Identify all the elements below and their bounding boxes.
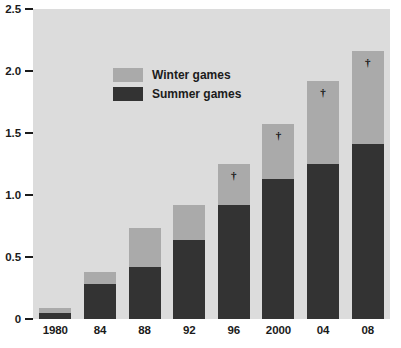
legend-label-summer-games: Summer games	[152, 87, 241, 101]
plot-area: †††† Winter games Summer games	[33, 9, 390, 319]
bar-segment-winter-1980[interactable]	[39, 308, 71, 313]
x-axis-tick-label-96: 96	[212, 324, 257, 336]
y-axis-tick-mark	[25, 70, 33, 72]
y-axis-tick-label: 0	[15, 313, 21, 325]
bar-segment-summer-84[interactable]	[84, 284, 116, 319]
y-axis-tick-label: 1.0	[5, 189, 21, 201]
dagger-annotation-2000: †	[262, 130, 294, 141]
y-axis-tick-label: 2.5	[5, 3, 21, 15]
y-axis-tick: 2.5	[5, 2, 33, 16]
bar-88[interactable]	[129, 228, 161, 319]
legend-label-winter-games: Winter games	[152, 68, 231, 82]
bar-segment-summer-96[interactable]	[218, 205, 250, 319]
bar-segment-summer-08[interactable]	[352, 144, 384, 319]
y-axis-tick-label: 2.0	[5, 65, 21, 77]
y-axis-tick-mark	[25, 8, 33, 10]
bar-segment-summer-92[interactable]	[173, 240, 205, 319]
bar-08[interactable]: †	[352, 51, 384, 319]
bar-segment-summer-04[interactable]	[307, 164, 339, 319]
y-axis-tick-label: 1.5	[5, 127, 21, 139]
legend-item-winter-games: Winter games	[113, 66, 241, 83]
bar-04[interactable]: †	[307, 81, 339, 319]
dagger-annotation-96: †	[218, 170, 250, 181]
y-axis-tick: 2.0	[5, 64, 33, 78]
bar-84[interactable]	[84, 272, 116, 319]
y-axis-tick-label: 0.5	[5, 251, 21, 263]
chart-legend: Winter games Summer games	[113, 66, 241, 104]
bar-segment-winter-92[interactable]	[173, 205, 205, 240]
legend-item-summer-games: Summer games	[113, 85, 241, 102]
bar-segment-summer-2000[interactable]	[262, 179, 294, 319]
bar-92[interactable]	[173, 205, 205, 319]
bar-2000[interactable]: †	[262, 124, 294, 319]
x-axis-tick-label-88: 88	[122, 324, 167, 336]
y-axis-tick: 1.0	[5, 188, 33, 202]
bar-segment-summer-88[interactable]	[129, 267, 161, 319]
y-axis-tick-mark	[25, 194, 33, 196]
bar-segment-winter-84[interactable]	[84, 272, 116, 284]
y-axis-tick-mark	[25, 318, 33, 320]
x-axis-tick-label-92: 92	[167, 324, 212, 336]
bar-segment-winter-88[interactable]	[129, 228, 161, 266]
dagger-annotation-04: †	[307, 87, 339, 98]
x-axis-tick-label-84: 84	[78, 324, 123, 336]
x-axis-tick-label-04: 04	[301, 324, 346, 336]
y-axis-tick: 1.5	[5, 126, 33, 140]
y-axis-tick: 0	[15, 312, 33, 326]
x-axis-tick-label-1980: 1980	[33, 324, 78, 336]
bar-96[interactable]: †	[218, 164, 250, 319]
x-axis-tick-label-2000: 2000	[256, 324, 301, 336]
y-axis-tick: 0.5	[5, 250, 33, 264]
legend-swatch-summer-games	[113, 87, 143, 101]
dagger-annotation-08: †	[352, 57, 384, 68]
stacked-bar-chart: †††† Winter games Summer games 00.51.01.…	[0, 0, 401, 348]
y-axis: 00.51.01.52.02.5	[0, 0, 33, 348]
bar-1980[interactable]	[39, 308, 71, 319]
y-axis-tick-mark	[25, 132, 33, 134]
x-axis-tick-label-08: 08	[345, 324, 390, 336]
x-axis: 19808488929620000408	[33, 319, 390, 348]
y-axis-tick-mark	[25, 256, 33, 258]
legend-swatch-winter-games	[113, 68, 143, 82]
